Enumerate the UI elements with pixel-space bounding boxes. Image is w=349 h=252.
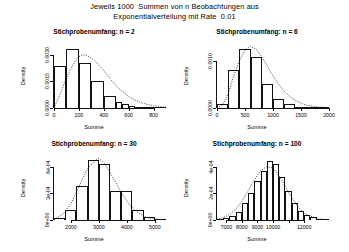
y-tick-label: 0e+00 — [207, 213, 213, 228]
y-axis — [216, 61, 217, 108]
panel-n-6: Stichprobenumfang: n = 60500100015002000… — [177, 28, 337, 138]
panel-title-n-6: Stichprobenumfang: n = 6 — [177, 28, 337, 35]
x-tick — [242, 220, 243, 223]
density-curve — [217, 44, 329, 108]
y-tick — [50, 55, 53, 56]
x-axis — [71, 220, 155, 221]
y-tick-label: 6e-04 — [44, 160, 50, 173]
y-tick-label: 0.0000 — [207, 100, 213, 116]
x-tick-label: 12000 — [297, 224, 311, 230]
y-tick — [50, 220, 53, 221]
x-tick-label: 7000 — [221, 224, 233, 230]
x-tick — [257, 220, 258, 223]
x-tick — [217, 108, 218, 111]
density-curve — [54, 156, 166, 220]
x-tick-label: 9000 — [252, 224, 264, 230]
y-tick-label: 2e-04 — [207, 187, 213, 200]
y-tick-label: 3e-04 — [44, 187, 50, 200]
x-tick — [304, 220, 305, 223]
y-axis-label: Density — [20, 179, 26, 198]
panel-title-n-100: Stichprobenumfang: n = 100 — [177, 140, 337, 147]
x-tick — [226, 220, 227, 223]
plot-area-n-30 — [54, 156, 166, 220]
x-tick-label: 4000 — [121, 224, 133, 230]
y-tick-label: 4e-04 — [207, 160, 213, 173]
y-axis — [216, 167, 217, 220]
x-tick — [54, 108, 55, 111]
x-tick — [154, 108, 155, 111]
y-axis — [53, 167, 54, 220]
x-tick — [155, 220, 156, 223]
y-axis-label: Density — [20, 67, 26, 86]
y-tick — [213, 108, 216, 109]
x-tick — [71, 220, 72, 223]
plot-area-n-100 — [217, 156, 329, 220]
x-tick — [273, 220, 274, 223]
y-axis — [53, 55, 54, 108]
x-tick-label: 1500 — [295, 112, 307, 118]
x-tick-label: 8000 — [236, 224, 248, 230]
x-axis-label: Summe — [177, 124, 337, 130]
y-tick — [213, 61, 216, 62]
density-curve — [217, 156, 329, 220]
x-tick-label: 5000 — [149, 224, 161, 230]
y-tick-label: 0.0010 — [207, 53, 213, 69]
x-tick-label: 600 — [124, 112, 133, 118]
x-tick — [289, 220, 290, 223]
panel-n-30: Stichprobenumfang: n = 30200030004000500… — [14, 140, 174, 250]
figure-title-line-2: Exponentialverteilung mit Rate 0.01 — [0, 12, 349, 22]
x-tick-label: 2000 — [323, 112, 335, 118]
x-axis-label: Summe — [14, 124, 174, 130]
x-tick-label: 0 — [216, 112, 219, 118]
x-tick-label: 10000 — [266, 224, 280, 230]
figure-title-line-1: Jeweils 1000 Summen von n Beobachtungen … — [0, 2, 349, 12]
x-tick — [104, 108, 105, 111]
plot-area-n-6 — [217, 44, 329, 108]
x-axis-label: Summe — [14, 236, 174, 242]
x-tick-label: 2000 — [65, 224, 77, 230]
panel-title-n-30: Stichprobenumfang: n = 30 — [14, 140, 174, 147]
panel-n-2: Stichprobenumfang: n = 202004006008000.0… — [14, 28, 174, 138]
y-axis-label: Density — [183, 67, 189, 86]
x-tick-label: 500 — [241, 112, 250, 118]
x-axis — [226, 220, 304, 221]
density-curve — [54, 44, 166, 108]
x-tick-label: 3000 — [93, 224, 105, 230]
panel-n-100: Stichprobenumfang: n = 10070008000900010… — [177, 140, 337, 250]
x-tick — [99, 220, 100, 223]
y-tick-label: 0e+00 — [44, 213, 50, 228]
y-tick-label: 0.0000 — [44, 100, 50, 116]
y-tick — [50, 108, 53, 109]
plot-area-n-2 — [54, 44, 166, 108]
x-tick — [329, 108, 330, 111]
x-axis-label: Summe — [177, 236, 337, 242]
x-tick-label: 1000 — [267, 112, 279, 118]
y-tick — [213, 220, 216, 221]
y-axis-label: Density — [183, 179, 189, 198]
x-tick-label: 0 — [53, 112, 56, 118]
x-tick — [301, 108, 302, 111]
y-tick — [50, 81, 53, 82]
figure-title: Jeweils 1000 Summen von n Beobachtungen … — [0, 2, 349, 21]
y-tick-label: 0.0015 — [44, 73, 50, 89]
y-tick-label: 0.0030 — [44, 47, 50, 63]
figure-root: Jeweils 1000 Summen von n Beobachtungen … — [0, 0, 349, 252]
x-tick — [127, 220, 128, 223]
x-tick — [129, 108, 130, 111]
x-tick — [245, 108, 246, 111]
x-tick-label: 200 — [75, 112, 84, 118]
x-tick — [273, 108, 274, 111]
x-tick — [79, 108, 80, 111]
x-tick-label: 800 — [149, 112, 158, 118]
panel-title-n-2: Stichprobenumfang: n = 2 — [14, 28, 174, 35]
x-tick-label: 400 — [99, 112, 108, 118]
